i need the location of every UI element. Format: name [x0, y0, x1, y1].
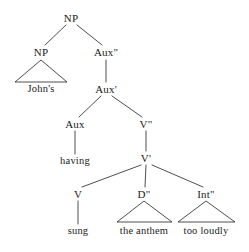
tree-leaf-leaf-the-anthem: the anthem	[120, 226, 168, 237]
edge-np-root-np-subj	[45, 25, 66, 45]
tree-leaf-leaf-johns: John's	[27, 84, 54, 95]
tree-node-np-root: NP	[64, 13, 78, 24]
tree-node-v2: V"	[140, 119, 153, 130]
edge-v1-d2	[145, 165, 146, 187]
edge-v1-v0	[82, 165, 141, 187]
triangle-johns	[15, 60, 67, 82]
tree-edges-layer	[0, 0, 249, 252]
tree-node-aux1: Aux'	[95, 84, 117, 95]
edge-aux1-v2	[112, 96, 142, 117]
tree-node-int2: Int"	[197, 189, 215, 200]
syntax-tree-diagram: NPNPAux"Aux'AuxV"V'VD"Int" John'shavings…	[0, 0, 249, 252]
tree-node-d2: D"	[138, 189, 151, 200]
tree-node-aux0: Aux	[65, 119, 85, 130]
triangle-the-anthem	[117, 201, 172, 222]
tree-node-np-subj: NP	[34, 47, 48, 58]
edge-aux1-aux0	[79, 96, 101, 117]
edge-np-root-aux2	[77, 25, 102, 45]
triangle-too-loudly	[178, 201, 235, 222]
tree-node-v0: V	[74, 189, 82, 200]
tree-node-v1: V'	[141, 153, 151, 164]
tree-leaf-leaf-having: having	[60, 156, 90, 167]
tree-leaf-leaf-sung: sung	[68, 226, 89, 237]
edge-v1-int2	[152, 165, 203, 187]
tree-leaf-leaf-too-loudly: too loudly	[184, 226, 229, 237]
tree-node-aux2: Aux"	[94, 47, 118, 58]
